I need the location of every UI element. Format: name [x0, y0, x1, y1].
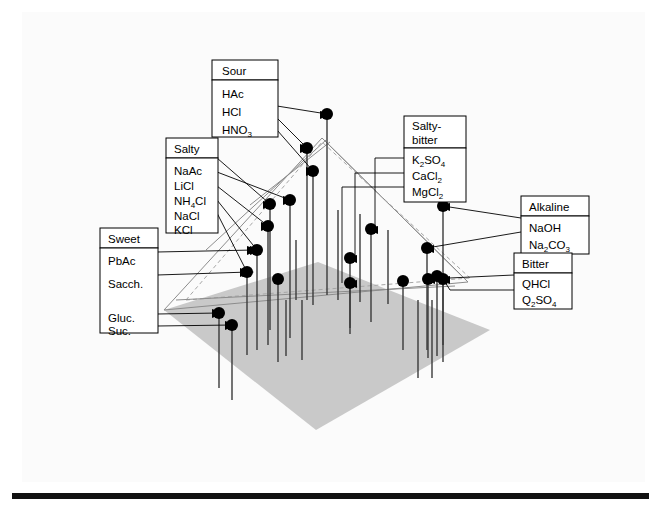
legend-item-licl: LiCl — [174, 180, 194, 192]
legend-item-kcl: KCl — [174, 224, 193, 236]
figure-root: Sour HAc HCl HNO3 Salty NaAc LiCl NH4Cl … — [0, 0, 658, 514]
legend-box-salty[interactable]: Salty NaAc LiCl NH4Cl NaCl KCl — [166, 138, 218, 236]
legend-header-salty-bitter-line2: bitter — [412, 134, 438, 146]
data-point — [397, 275, 409, 287]
legend-box-sweet[interactable]: Sweet PbAc Sacch. Gluc. Suc. — [100, 228, 158, 337]
legend-item-naac: NaAc — [174, 165, 202, 177]
legend-item-gluc: Gluc. — [108, 312, 135, 324]
legend-item-nacl: NaCl — [174, 210, 200, 222]
legend-header-bitter: Bitter — [522, 258, 549, 270]
bottom-rule — [12, 493, 649, 499]
data-point — [272, 273, 284, 285]
legend-item-sacch: Sacch. — [108, 278, 143, 290]
figure-svg: Sour HAc HCl HNO3 Salty NaAc LiCl NH4Cl … — [0, 0, 658, 514]
legend-item-suc: Suc. — [108, 325, 131, 337]
legend-header-salty: Salty — [174, 143, 200, 155]
legend-item-hac: HAc — [222, 88, 244, 100]
legend-item-hcl: HCl — [222, 106, 241, 118]
legend-box-salty-bitter[interactable]: Salty- bitter K2SO4 CaCl2 MgCl2 — [404, 116, 466, 202]
legend-item-naoh: NaOH — [529, 222, 561, 234]
legend-box-sour[interactable]: Sour HAc HCl HNO3 — [212, 60, 278, 139]
legend-header-salty-bitter-line1: Salty- — [412, 120, 442, 132]
legend-header-sour: Sour — [222, 65, 246, 77]
legend-box-bitter[interactable]: Bitter QHCl Q2SO4 — [514, 253, 572, 309]
legend-item-qhcl: QHCl — [522, 278, 550, 290]
legend-header-alkaline: Alkaline — [529, 201, 569, 213]
legend-header-sweet: Sweet — [108, 233, 141, 245]
legend-item-pbac: PbAc — [108, 255, 136, 267]
legend-box-alkaline[interactable]: Alkaline NaOH Na2CO3 — [521, 196, 589, 254]
